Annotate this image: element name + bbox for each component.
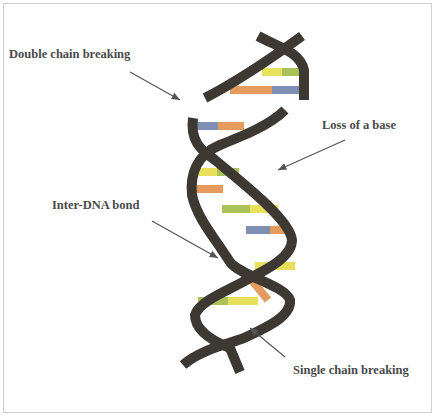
arrow-loss-base bbox=[278, 140, 345, 170]
base-pair bbox=[193, 185, 223, 193]
base-pair bbox=[246, 226, 270, 234]
label-double-chain-breaking: Double chain breaking bbox=[9, 47, 130, 62]
label-inter-dna-bond: Inter-DNA bond bbox=[52, 198, 139, 213]
base-pair bbox=[262, 68, 282, 76]
base-pair bbox=[218, 122, 244, 130]
base-pair bbox=[228, 297, 258, 305]
base-pair bbox=[230, 86, 272, 94]
base-pair bbox=[222, 205, 250, 213]
label-single-chain-breaking: Single chain breaking bbox=[293, 363, 409, 378]
arrow-single-chain bbox=[250, 328, 285, 357]
arrow-double-chain bbox=[130, 72, 180, 100]
base-pair bbox=[272, 86, 302, 94]
label-loss-of-a-base: Loss of a base bbox=[322, 118, 396, 133]
pointer-arrows bbox=[130, 72, 345, 357]
